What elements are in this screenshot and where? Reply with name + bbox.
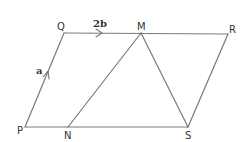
edge-pq <box>25 33 64 127</box>
edge-ms <box>141 33 188 127</box>
vector-label-a: a <box>36 65 43 76</box>
vertex-label-r: R <box>229 24 236 35</box>
edge-qr <box>64 33 228 34</box>
vertex-label-p: P <box>17 125 23 136</box>
vertex-label-m: M <box>137 21 146 32</box>
parallelogram-diagram: Q M R P N S 2b a <box>0 0 249 142</box>
vertex-label-s: S <box>185 130 191 141</box>
edge-nm <box>68 33 141 127</box>
vector-label-2b: 2b <box>93 18 107 29</box>
vertex-label-n: N <box>64 130 71 141</box>
edge-rs <box>188 34 228 127</box>
vertex-label-q: Q <box>57 21 65 32</box>
